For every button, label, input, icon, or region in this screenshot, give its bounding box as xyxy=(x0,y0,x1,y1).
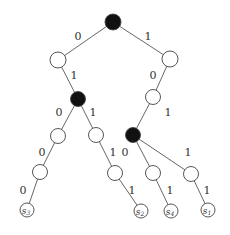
binary-tree-diagram: 011001101010111 s3s2s4s1 xyxy=(0,0,230,235)
edge-label: 1 xyxy=(167,184,174,197)
edge-label: 0 xyxy=(75,30,82,43)
tree-edge xyxy=(133,135,191,174)
empty-node-circle xyxy=(89,128,104,143)
edge-label: 0 xyxy=(150,69,157,82)
tree-node xyxy=(184,167,199,182)
empty-node-circle xyxy=(184,167,199,182)
edge-label: 0 xyxy=(20,184,27,197)
tree-edge xyxy=(113,22,170,59)
edge-label: 0 xyxy=(39,146,46,159)
tree-node xyxy=(51,129,66,144)
edge-label: 0 xyxy=(56,106,63,119)
edge-label: 1 xyxy=(204,184,211,197)
filled-node-circle xyxy=(71,92,86,107)
empty-node-circle xyxy=(50,52,66,68)
edge-label: 1 xyxy=(129,184,136,197)
tree-edge xyxy=(58,22,113,60)
empty-node-circle xyxy=(33,165,48,180)
edge-label: 1 xyxy=(185,146,192,159)
edge-label: 1 xyxy=(145,30,152,43)
empty-node-circle xyxy=(108,166,123,181)
empty-node-circle xyxy=(146,166,161,181)
leaf-node-s2: s2 xyxy=(134,204,148,218)
edge-label: 1 xyxy=(165,106,172,119)
tree-edges xyxy=(27,22,208,211)
tree-node xyxy=(89,128,104,143)
tree-node xyxy=(126,128,141,143)
tree-node xyxy=(50,52,66,68)
leaf-node-s1: s1 xyxy=(201,203,215,217)
tree-node xyxy=(71,92,86,107)
tree-node xyxy=(162,51,178,67)
tree-node xyxy=(108,166,123,181)
tree-node xyxy=(146,90,161,105)
tree-node xyxy=(105,14,121,30)
tree-node xyxy=(146,166,161,181)
filled-node-circle xyxy=(126,128,141,143)
edge-label: 0 xyxy=(122,146,129,159)
edge-label: 1 xyxy=(90,106,97,119)
edge-label: 1 xyxy=(110,146,117,159)
empty-node-circle xyxy=(51,129,66,144)
leaf-node-s3: s3 xyxy=(20,203,34,217)
edge-label: 1 xyxy=(71,69,78,82)
empty-node-circle xyxy=(146,90,161,105)
empty-node-circle xyxy=(162,51,178,67)
filled-node-circle xyxy=(105,14,121,30)
tree-nodes: s3s2s4s1 xyxy=(20,14,215,218)
leaf-node-s4: s4 xyxy=(164,204,178,218)
tree-node xyxy=(33,165,48,180)
